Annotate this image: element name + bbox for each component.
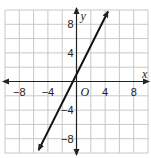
plotted-line bbox=[39, 11, 108, 150]
x-tick-label: −4 bbox=[42, 86, 55, 98]
x-axis-label: x bbox=[141, 67, 148, 81]
x-tick-label: −8 bbox=[13, 86, 26, 98]
y-tick-label: −4 bbox=[61, 104, 74, 116]
x-tick-label: 4 bbox=[102, 86, 108, 98]
y-axis-label: y bbox=[80, 9, 87, 23]
y-tick-label: 4 bbox=[67, 47, 73, 59]
coordinate-plane: −8−44884−4−8Oxy bbox=[0, 0, 151, 158]
axes bbox=[3, 8, 149, 155]
y-tick-label: −8 bbox=[61, 133, 74, 145]
y-tick-label: 8 bbox=[67, 18, 73, 30]
data-line bbox=[39, 11, 108, 150]
origin-label: O bbox=[81, 85, 90, 99]
x-tick-label: 8 bbox=[131, 86, 137, 98]
